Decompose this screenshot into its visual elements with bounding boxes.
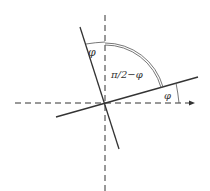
phi-right-arc (176, 83, 179, 103)
complement-angle-label: π/2−φ (110, 69, 143, 80)
diagram-canvas: φ π/2−φ φ (0, 0, 210, 191)
rotated-horizontal-line (56, 77, 198, 117)
phi-top-arc (86, 42, 105, 44)
phi-top-label: φ (88, 46, 96, 59)
complement-arc-outer (105, 43, 163, 87)
horizontal-axis-arrowhead (189, 101, 195, 106)
phi-right-label: φ (164, 90, 171, 101)
angle-diagram: φ π/2−φ φ (0, 0, 210, 191)
